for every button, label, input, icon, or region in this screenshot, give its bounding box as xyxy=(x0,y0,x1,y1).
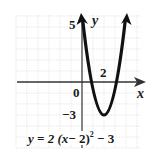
tick-label-neg3: −3 xyxy=(62,108,76,121)
equation-label: y = 2 (x− 2)2 − 3 xyxy=(27,131,115,145)
y-axis-label: y xyxy=(92,14,98,28)
tick-label-2: 2 xyxy=(100,66,107,79)
tick-label-5: 5 xyxy=(69,18,76,31)
equation-mid: − 2) xyxy=(68,131,90,146)
tick-label-0: 0 xyxy=(73,86,80,99)
equation-right: − 3 xyxy=(94,131,114,146)
equation-left: y = 2 (x xyxy=(28,131,68,146)
x-axis-label: x xyxy=(137,87,144,101)
